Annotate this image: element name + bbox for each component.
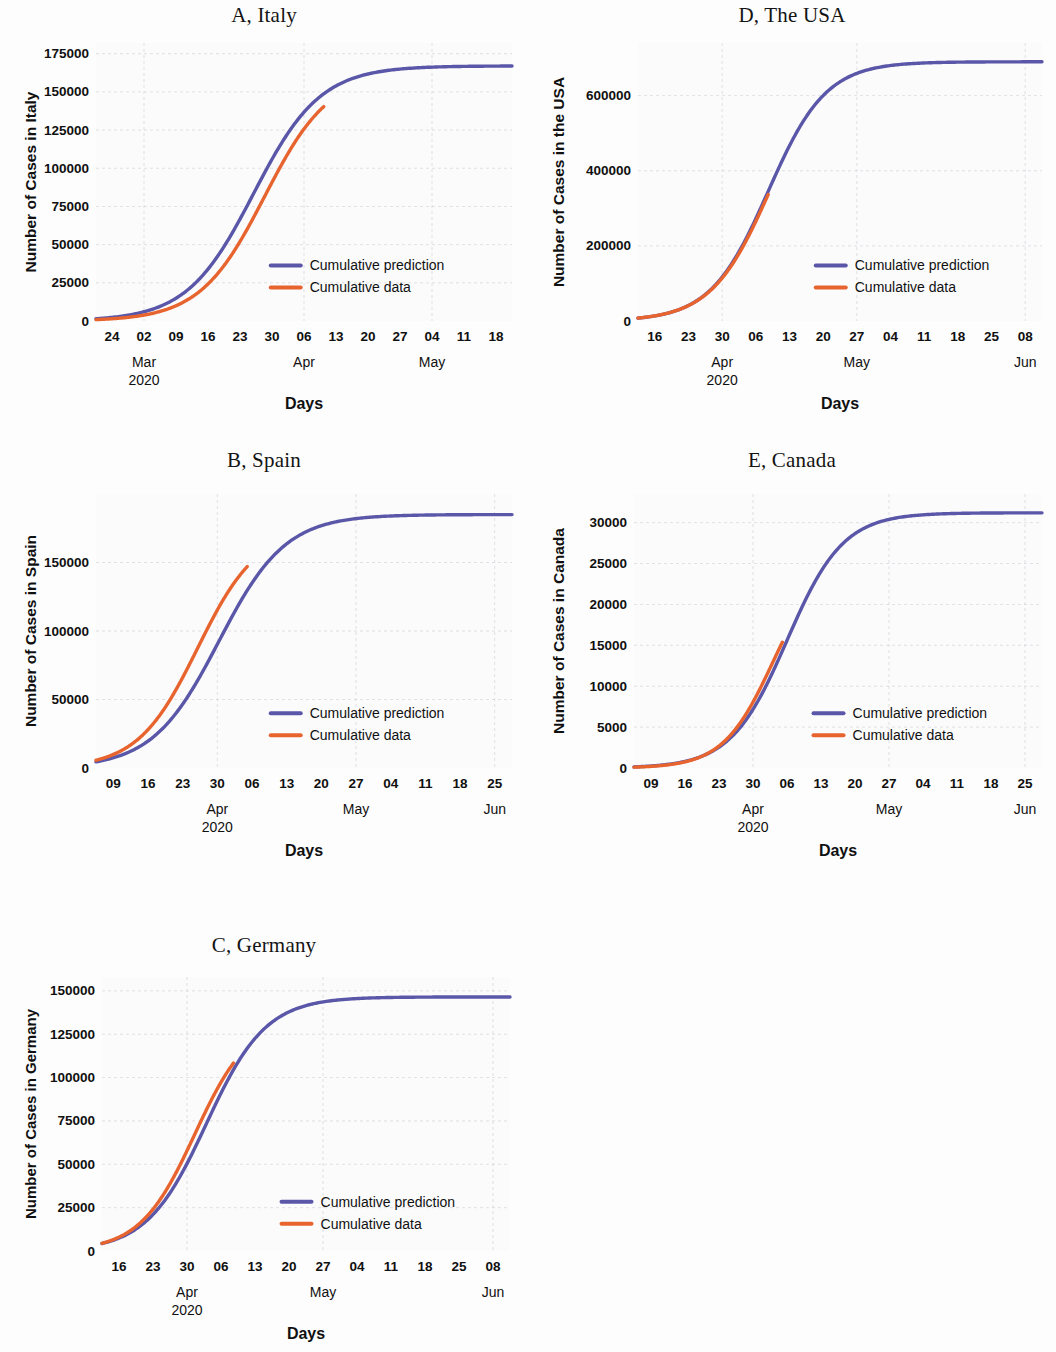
panel-b-title: B, Spain <box>0 445 528 478</box>
y-tick-label: 10000 <box>589 679 627 694</box>
y-tick-label: 75000 <box>57 1114 95 1129</box>
y-tick-label: 5000 <box>597 720 627 735</box>
x-tick-label: 30 <box>715 329 730 344</box>
x-tick-label: 20 <box>314 776 329 791</box>
x-tick-label: 27 <box>881 776 896 791</box>
x-tick-label: 18 <box>417 1259 433 1274</box>
x-tick-label: 25 <box>451 1259 467 1274</box>
x-tick-label: 04 <box>883 329 899 344</box>
x-axis-label: Days <box>96 842 512 860</box>
y-tick-label: 150000 <box>50 983 95 998</box>
x-tick-label: 16 <box>200 329 216 344</box>
panel-a-plot: 0250005000075000100000125000150000175000… <box>0 33 528 413</box>
y-tick-label: 200000 <box>586 238 631 253</box>
y-tick-label: 75000 <box>51 199 89 214</box>
panel-d-usa: D, The USA 02000004000006000001623300613… <box>528 0 1056 420</box>
x-axis-month-label: May <box>310 1284 336 1300</box>
y-tick-label: 0 <box>81 314 89 329</box>
y-tick-label: 20000 <box>589 597 627 612</box>
x-axis-month-label: Apr <box>176 1284 198 1300</box>
x-axis-month-label: Apr <box>206 801 228 817</box>
legend-label-data: Cumulative data <box>853 727 954 743</box>
y-tick-label: 400000 <box>586 163 631 178</box>
plot-background <box>102 977 510 1251</box>
x-tick-label: 25 <box>1017 776 1033 791</box>
x-tick-label: 09 <box>168 329 183 344</box>
x-tick-label: 16 <box>647 329 663 344</box>
x-tick-label: 23 <box>681 329 697 344</box>
y-tick-label: 0 <box>81 761 89 776</box>
y-tick-label: 100000 <box>50 1070 95 1085</box>
panel-b-spain: B, Spain 0500001000001500000916233006132… <box>0 445 528 875</box>
panel-a-title: A, Italy <box>0 0 528 33</box>
panel-d-title: D, The USA <box>528 0 1056 33</box>
x-axis-year-label: 2020 <box>128 372 159 388</box>
y-tick-label: 15000 <box>589 638 627 653</box>
legend-label-data: Cumulative data <box>855 279 956 295</box>
panel-e-plot: 0500010000150002000025000300000916233006… <box>528 478 1056 866</box>
chart-canvas: 0250005000075000100000125000150000175000… <box>0 33 528 413</box>
chart-canvas: 0500001000001500000916233006132027041118… <box>0 478 528 866</box>
x-tick-label: 27 <box>392 329 407 344</box>
x-tick-label: 13 <box>247 1259 263 1274</box>
y-axis-label: Number of Cases in the USA <box>550 77 568 287</box>
y-axis-label: Number of Cases in Germany <box>22 1009 39 1219</box>
y-tick-label: 100000 <box>44 624 89 639</box>
x-tick-label: 30 <box>210 776 225 791</box>
x-tick-label: 18 <box>983 776 999 791</box>
x-tick-label: 16 <box>111 1259 127 1274</box>
x-tick-label: 11 <box>384 1259 399 1274</box>
x-tick-label: 06 <box>296 329 312 344</box>
x-axis-month-label: Apr <box>742 801 764 817</box>
x-tick-label: 27 <box>348 776 363 791</box>
y-tick-label: 25000 <box>51 275 89 290</box>
x-tick-label: 04 <box>915 776 931 791</box>
x-tick-label: 18 <box>488 329 504 344</box>
panel-a-italy: A, Italy 0250005000075000100000125000150… <box>0 0 528 420</box>
x-tick-label: 06 <box>213 1259 229 1274</box>
x-axis-year-label: 2020 <box>707 372 738 388</box>
x-tick-label: 02 <box>136 329 151 344</box>
x-tick-label: 23 <box>711 776 727 791</box>
x-tick-label: 27 <box>849 329 864 344</box>
y-tick-label: 150000 <box>44 84 89 99</box>
y-tick-label: 0 <box>623 314 631 329</box>
y-tick-label: 50000 <box>57 1157 95 1172</box>
legend-label-data: Cumulative data <box>310 279 411 295</box>
x-axis-year-label: 2020 <box>202 819 233 835</box>
y-tick-label: 175000 <box>44 46 89 61</box>
x-tick-label: 20 <box>816 329 831 344</box>
x-tick-label: 04 <box>383 776 399 791</box>
panel-c-germany: C, Germany 02500050000750001000001250001… <box>0 930 528 1352</box>
x-tick-label: 04 <box>424 329 440 344</box>
x-axis-label: Days <box>96 395 512 413</box>
x-tick-label: 06 <box>779 776 795 791</box>
x-tick-label: 16 <box>140 776 156 791</box>
y-tick-label: 100000 <box>44 161 89 176</box>
legend-label-prediction: Cumulative prediction <box>310 705 445 721</box>
x-tick-label: 23 <box>232 329 248 344</box>
y-tick-label: 0 <box>619 761 627 776</box>
legend-label-data: Cumulative data <box>310 727 411 743</box>
y-tick-label: 125000 <box>44 123 89 138</box>
x-tick-label: 18 <box>950 329 966 344</box>
x-tick-label: 30 <box>745 776 760 791</box>
panel-c-title: C, Germany <box>0 930 528 963</box>
x-tick-label: 08 <box>485 1259 501 1274</box>
x-tick-label: 09 <box>643 776 658 791</box>
x-axis-month-label: May <box>419 354 445 370</box>
x-axis-month-label: Apr <box>293 354 315 370</box>
x-axis-month-label: Jun <box>483 801 506 817</box>
legend-label-data: Cumulative data <box>321 1216 422 1232</box>
x-axis-month-label: Jun <box>1014 354 1037 370</box>
y-tick-label: 125000 <box>50 1027 95 1042</box>
y-tick-label: 50000 <box>51 692 89 707</box>
x-tick-label: 09 <box>106 776 121 791</box>
figure-root: A, Italy 0250005000075000100000125000150… <box>0 0 1056 1352</box>
y-tick-label: 600000 <box>586 88 631 103</box>
x-tick-label: 20 <box>281 1259 296 1274</box>
x-axis-month-label: May <box>343 801 369 817</box>
legend-label-prediction: Cumulative prediction <box>855 257 990 273</box>
x-axis-month-label: Apr <box>711 354 733 370</box>
x-axis-month-label: Jun <box>1014 801 1037 817</box>
